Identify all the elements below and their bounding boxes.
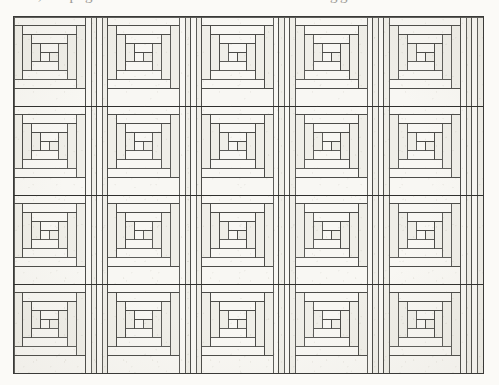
- caption-remnant: , ff p g gg: [0, 0, 499, 12]
- parquet-pattern-svg: [14, 17, 483, 373]
- caption-remnant-text: , ff p g: [38, 0, 95, 4]
- parquet-plate: [13, 16, 484, 374]
- parquet-plate-wrapper: [13, 16, 484, 374]
- caption-remnant-text-right: gg: [330, 0, 350, 4]
